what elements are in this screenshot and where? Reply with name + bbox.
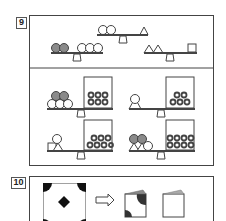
right-arrow-icon — [96, 194, 114, 206]
problem-10-diagram — [0, 0, 226, 221]
folded-option-1 — [125, 190, 146, 217]
folded-option-2 — [163, 190, 184, 217]
